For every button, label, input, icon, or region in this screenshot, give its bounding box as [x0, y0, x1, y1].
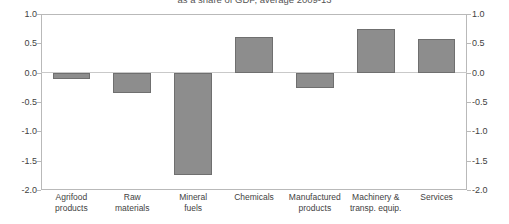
x-axis-category-label: Rawmaterials [102, 192, 163, 213]
x-axis-category-label-line: Services [406, 192, 467, 203]
chart-container: as a share of GDP, average 2009-13 1.01.… [0, 0, 509, 224]
y-axis-tick-mark [467, 14, 471, 15]
y-axis-left-tick-label: 0.0 [4, 68, 37, 78]
chart-title: as a share of GDP, average 2009-13 [0, 0, 509, 5]
bar [418, 39, 456, 73]
y-axis-tick-mark [467, 161, 471, 162]
x-axis-category-label-line: Raw [102, 192, 163, 203]
bars-layer [41, 14, 467, 190]
bar [113, 73, 151, 93]
x-axis-category-label-line: Chemicals [224, 192, 285, 203]
y-axis-tick-mark [467, 73, 471, 74]
y-axis-tick-mark [467, 102, 471, 103]
y-axis-right-tick-label: 1.0 [472, 9, 506, 19]
y-axis-right-tick-label: 0.5 [472, 38, 506, 48]
y-axis-right-tick-label: -2.0 [472, 185, 506, 195]
y-axis-left-tick-label: -0.5 [4, 97, 37, 107]
y-axis-tick-mark [467, 43, 471, 44]
bar [357, 29, 395, 73]
y-axis-left-tick-label: 0.5 [4, 38, 37, 48]
y-axis-tick-mark [37, 190, 41, 191]
bar [53, 73, 91, 79]
bar [174, 73, 212, 176]
x-axis-category-label-line: transp. equip. [345, 203, 406, 214]
y-axis-tick-mark [467, 190, 471, 191]
x-axis-category-label: Mineralfuels [163, 192, 224, 213]
y-axis-right-tick-label: -1.0 [472, 126, 506, 136]
x-axis-category-label: Services [406, 192, 467, 203]
y-axis-right-tick-label: -1.5 [472, 156, 506, 166]
y-axis-left-tick-label: -1.0 [4, 126, 37, 136]
x-axis-category-label-line: products [284, 203, 345, 214]
y-axis-tick-mark [467, 131, 471, 132]
x-axis-category-label-line: fuels [163, 203, 224, 214]
x-axis-category-label-line: products [41, 203, 102, 214]
x-axis-category-label: Agrifoodproducts [41, 192, 102, 213]
y-axis-right-tick-label: -0.5 [472, 97, 506, 107]
y-axis-right-tick-label: 0.0 [472, 68, 506, 78]
x-axis-category-label-line: Agrifood [41, 192, 102, 203]
x-axis-category-label-line: Machinery & [345, 192, 406, 203]
y-axis-left-tick-label: -1.5 [4, 156, 37, 166]
x-axis-category-label-line: Manufactured [284, 192, 345, 203]
y-axis-left-tick-label: 1.0 [4, 9, 37, 19]
bar [296, 73, 334, 88]
x-axis-category-label-line: materials [102, 203, 163, 214]
x-axis-category-label: Chemicals [224, 192, 285, 203]
y-axis-left-tick-label: -2.0 [4, 185, 37, 195]
bar [235, 37, 273, 73]
x-axis-category-label: Manufacturedproducts [284, 192, 345, 213]
x-axis-labels: AgrifoodproductsRawmaterialsMineralfuels… [41, 192, 467, 224]
x-axis-category-label-line: Mineral [163, 192, 224, 203]
x-axis-category-label: Machinery &transp. equip. [345, 192, 406, 213]
